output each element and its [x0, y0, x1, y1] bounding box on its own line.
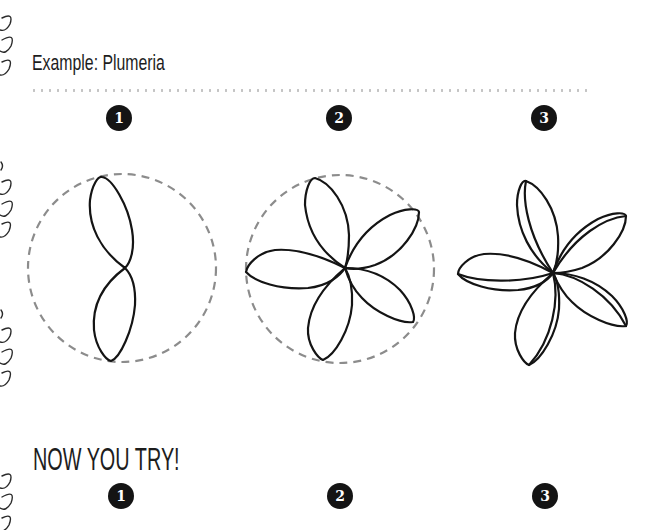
practice-step-2-badge: 2 — [327, 483, 353, 509]
petal-bottom — [94, 268, 135, 361]
petal-right-lower — [345, 268, 414, 322]
flower-center — [551, 271, 556, 276]
petal-right-upper — [553, 213, 626, 273]
petal-left-fold — [458, 273, 553, 281]
petal-top — [90, 177, 133, 268]
petal-right-upper — [345, 209, 419, 269]
practice-step-1-badge: 1 — [108, 483, 134, 509]
guide-circle-1 — [28, 174, 216, 362]
practice-step-3-badge: 3 — [532, 483, 558, 509]
petal-right-lower — [553, 273, 627, 326]
step-3-drawing — [458, 181, 627, 365]
step-1-drawing — [28, 174, 216, 362]
step-2-drawing — [246, 175, 434, 363]
practice-title: NOW YOU TRY! — [33, 441, 180, 478]
